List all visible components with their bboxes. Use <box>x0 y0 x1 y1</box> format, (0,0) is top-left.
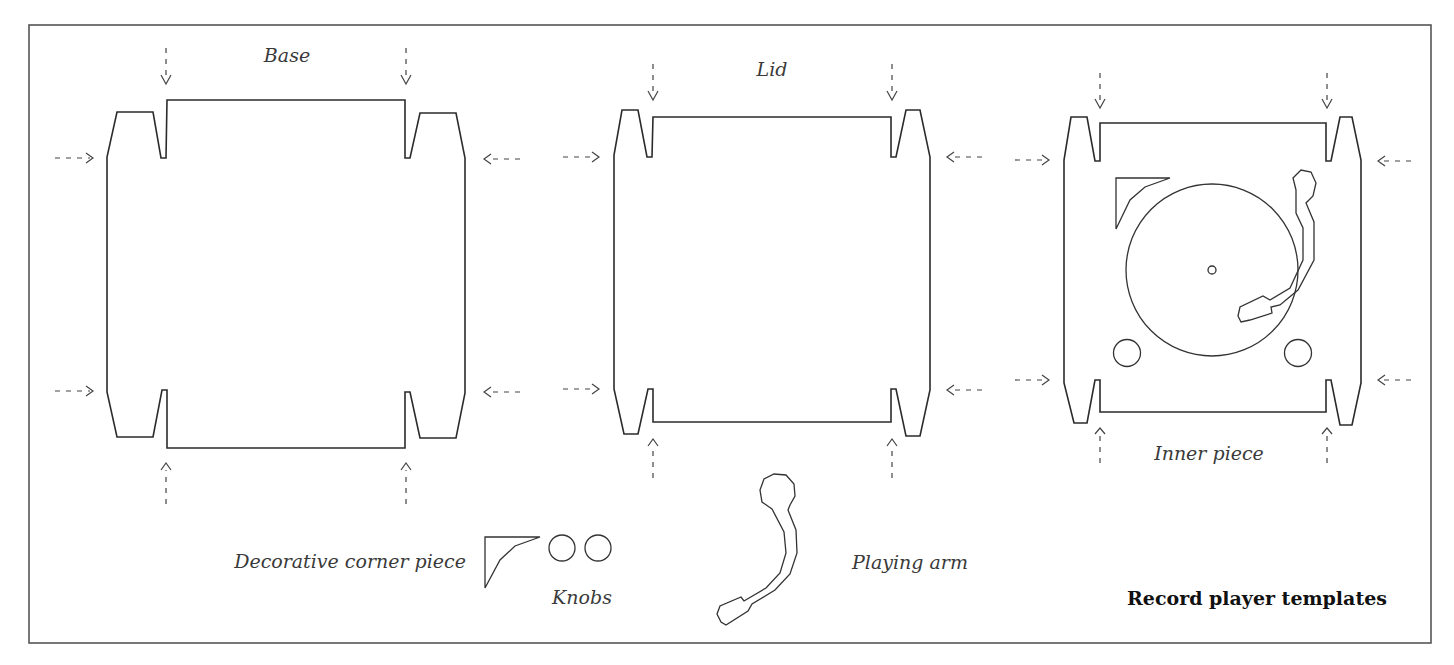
dashed-arrow-icon <box>1015 375 1049 385</box>
dashed-arrow-icon <box>55 386 93 396</box>
dashed-arrow-icon <box>401 48 411 84</box>
inner-piece-outline <box>1064 117 1361 425</box>
dashed-arrow-icon <box>1095 73 1105 108</box>
platter-circle <box>1126 184 1298 356</box>
knobs-label: Knobs <box>551 586 612 608</box>
knobs: Knobs <box>549 535 612 608</box>
corner-cutout <box>1116 178 1170 229</box>
base-label: Base <box>263 44 310 66</box>
corner-piece-shape <box>485 537 540 588</box>
inner-piece-label: Inner piece <box>1153 442 1264 464</box>
knob-cutout <box>1114 340 1141 367</box>
dashed-arrow-icon <box>401 463 411 504</box>
base-template: Base <box>55 44 520 504</box>
dashed-arrow-icon <box>648 64 658 100</box>
dashed-arrow-icon <box>1378 375 1411 385</box>
dashed-arrow-icon <box>55 153 93 163</box>
dashed-arrow-icon <box>563 152 599 162</box>
knob-circle <box>585 535 611 561</box>
lid-label: Lid <box>756 58 788 80</box>
knob-cutout <box>1285 340 1312 367</box>
dashed-arrow-icon <box>648 439 658 478</box>
spindle-circle <box>1208 266 1216 274</box>
playing-arm: Playing arm <box>717 474 968 625</box>
record-player-template-diagram: Base <box>0 0 1454 665</box>
dashed-arrow-icon <box>484 387 520 397</box>
lid-outline <box>614 110 930 436</box>
playing-arm-shape <box>717 474 797 625</box>
dashed-arrow-icon <box>484 154 520 164</box>
lid-template: Lid <box>563 58 982 478</box>
dashed-arrow-icon <box>1378 156 1411 166</box>
dashed-arrow-icon <box>1322 73 1332 108</box>
dashed-arrow-icon <box>947 385 982 395</box>
dashed-arrow-icon <box>161 463 171 504</box>
decorative-corner-piece: Decorative corner piece <box>233 537 540 588</box>
dashed-arrow-icon <box>161 48 171 84</box>
corner-piece-label: Decorative corner piece <box>233 550 466 572</box>
base-outline <box>107 100 465 448</box>
knob-circle <box>549 535 575 561</box>
dashed-arrow-icon <box>887 439 897 478</box>
dashed-arrow-icon <box>1095 428 1105 463</box>
figure-title: Record player templates <box>1127 587 1387 609</box>
dashed-arrow-icon <box>1322 428 1332 463</box>
dashed-arrow-icon <box>563 384 599 394</box>
dashed-arrow-icon <box>1015 155 1049 165</box>
dashed-arrow-icon <box>887 64 897 100</box>
dashed-arrow-icon <box>947 152 982 162</box>
playing-arm-label: Playing arm <box>851 551 968 573</box>
inner-piece-template: Inner piece <box>1015 73 1411 464</box>
